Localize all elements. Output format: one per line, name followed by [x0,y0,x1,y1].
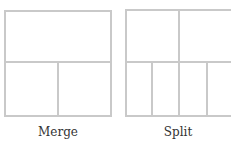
split-bottom-vertical-divider-2 [178,61,180,117]
split-label: Split [125,125,231,139]
merge-label: Merge [4,125,112,139]
split-bottom-vertical-divider-3 [206,61,208,117]
split-top-vertical-divider [178,9,180,63]
split-bottom-vertical-divider-1 [151,61,153,117]
merge-vertical-divider [57,61,59,117]
